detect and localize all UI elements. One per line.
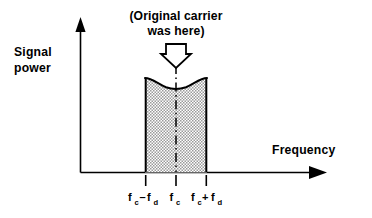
down-arrow-outline-shape bbox=[161, 44, 191, 68]
annotation-line-1: (Original carrier bbox=[129, 9, 222, 23]
figure-canvas: (Original carrier was here) Signal power… bbox=[0, 0, 372, 218]
tick-0-base: f bbox=[128, 191, 132, 203]
annotation-line-2: was here) bbox=[146, 24, 204, 38]
x-axis-ticks bbox=[146, 175, 207, 186]
right-arrow-solid-icon bbox=[309, 166, 327, 179]
tick-0-operator: – bbox=[140, 191, 146, 203]
doppler-spectrum-figure: (Original carrier was here) Signal power… bbox=[0, 0, 372, 218]
tick-0-sub2: d bbox=[154, 198, 159, 207]
x-axis-label-text: Frequency bbox=[272, 143, 335, 157]
y-axis-label: Signal power bbox=[14, 45, 52, 75]
x-axis-label: Frequency bbox=[272, 143, 335, 157]
tick-label-fc: f c bbox=[170, 191, 181, 207]
tick-2-base2: f bbox=[211, 191, 215, 203]
down-arrow-outline-icon bbox=[161, 44, 191, 68]
x-axis-tick-labels: f c – f d f c f c + f d bbox=[128, 191, 223, 207]
tick-0-base2: f bbox=[147, 191, 151, 203]
y-axis-label-line-2: power bbox=[14, 61, 51, 75]
y-axis-label-line-1: Signal bbox=[14, 45, 52, 59]
tick-label-fc-minus-fd: f c – f d bbox=[128, 191, 159, 207]
tick-2-operator: + bbox=[202, 191, 208, 203]
tick-1-base: f bbox=[170, 191, 174, 203]
y-axis bbox=[75, 17, 85, 173]
tick-1-sub: c bbox=[176, 198, 180, 207]
tick-0-sub: c bbox=[135, 198, 139, 207]
tick-2-sub2: d bbox=[218, 198, 223, 207]
annotation-text: (Original carrier was here) bbox=[129, 9, 222, 38]
up-arrow-solid-icon bbox=[75, 17, 85, 32]
tick-label-fc-plus-fd: f c + f d bbox=[191, 191, 223, 207]
tick-2-base: f bbox=[191, 191, 195, 203]
